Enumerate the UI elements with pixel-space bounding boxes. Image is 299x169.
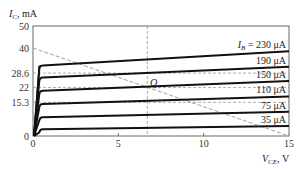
curve-label: IB = 230 μA [237,39,287,52]
y-axis-label: IC, mA [8,8,38,21]
load-line [33,48,289,136]
y-axis-ticks: 015.32228.64050 [12,21,30,142]
x-tick-label: 15 [284,138,294,149]
x-tick-label: 5 [116,138,121,149]
y-tick-label: 0 [24,131,29,142]
load-line-path [33,48,289,136]
curve-line [34,126,289,136]
y-tick-label: 40 [19,43,29,54]
y-tick-label: 50 [19,21,29,32]
x-tick-label: 0 [31,138,36,149]
curve-label: 75 μA [261,100,287,111]
transistor-characteristic-chart: 015.32228.64050 051015 IC, mA VCE, V Q I… [0,0,299,169]
curve-line [34,51,289,136]
curve-label: 190 μA [256,55,287,66]
q-point-label: Q [150,77,158,88]
y-tick-label: 28.6 [12,68,30,79]
curve-label: 35 μA [261,114,287,125]
x-tick-label: 10 [199,138,209,149]
curve-label: 110 μA [256,84,286,95]
curve-label: 150 μA [256,69,287,80]
curve-line [34,112,289,136]
characteristic-curves [34,51,289,136]
y-tick-label: 15.3 [12,97,30,108]
y-tick-label: 22 [19,82,29,93]
x-axis-label: VCE, V [262,153,290,166]
x-axis-ticks: 051015 [31,133,295,149]
